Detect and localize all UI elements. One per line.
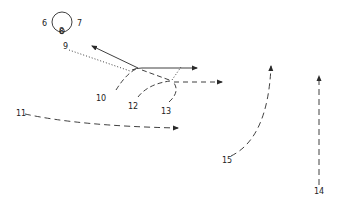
label-11: 11: [16, 110, 26, 118]
solid-arrow-upleft: [92, 46, 138, 68]
label-12: 12: [128, 103, 138, 111]
path-junction-dashed: [142, 70, 172, 81]
label-9: 9: [63, 43, 68, 51]
trajectory-diagram: 6 7 8 9 10 11 12 13 14 15: [0, 0, 337, 212]
label-13: 13: [161, 108, 171, 116]
solid-arrow-right: [132, 68, 197, 70]
dotted-up: [172, 67, 181, 80]
path-9-dotted: [69, 50, 130, 71]
label-8: 8: [59, 28, 64, 36]
path-12-dashed: [138, 81, 170, 97]
label-6: 6: [42, 20, 47, 28]
diagram-svg: [0, 0, 337, 212]
label-7: 7: [77, 20, 82, 28]
path-11-dashed: [25, 114, 178, 128]
path-13-dashed: [169, 83, 176, 102]
path-15-dashed: [231, 66, 271, 156]
label-10: 10: [96, 95, 106, 103]
label-14: 14: [314, 188, 324, 196]
path-10-dashed: [116, 69, 136, 90]
label-15: 15: [222, 157, 232, 165]
